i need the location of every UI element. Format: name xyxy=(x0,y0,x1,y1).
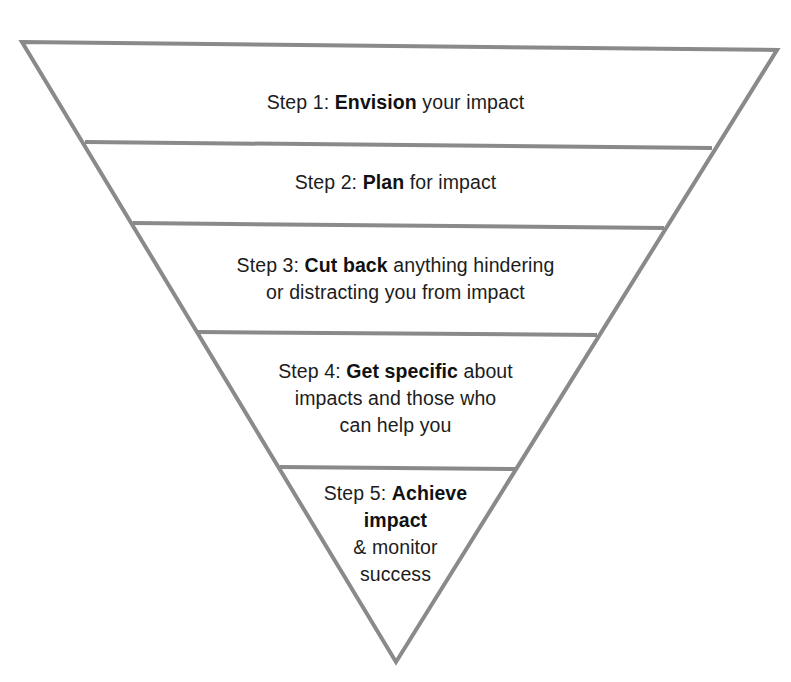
step-2-description: for impact xyxy=(404,171,496,193)
step-1-description: your impact xyxy=(417,91,524,113)
step-3-tier: Step 3: Cut back anything hindering or d… xyxy=(0,252,791,306)
step-5-line-2: impact xyxy=(0,507,791,534)
step-4-line-3: can help you xyxy=(0,412,791,439)
divider-1-2 xyxy=(85,142,712,148)
step-4-emphasis: Get specific xyxy=(346,360,458,382)
step-1-line-1: Step 1: Envision your impact xyxy=(0,89,791,116)
step-2-tier: Step 2: Plan for impact xyxy=(0,169,791,196)
step-4-description-cont: impacts and those who xyxy=(295,387,497,409)
step-5-line-4: success xyxy=(0,561,791,588)
step-5-description: & monitor xyxy=(353,536,437,558)
step-1-tier: Step 1: Envision your impact xyxy=(0,89,791,116)
divider-4-5 xyxy=(280,467,515,469)
step-3-description: anything hindering xyxy=(388,254,555,276)
step-2-emphasis: Plan xyxy=(363,171,405,193)
step-5-emphasis-cont: impact xyxy=(364,509,427,531)
step-5-description-end: success xyxy=(360,563,431,585)
step-5-line-3: & monitor xyxy=(0,534,791,561)
step-1-label: Step 1: xyxy=(267,91,335,113)
step-4-line-1: Step 4: Get specific about xyxy=(0,358,791,385)
step-3-line-2: or distracting you from impact xyxy=(0,279,791,306)
step-5-label: Step 5: xyxy=(324,482,392,504)
step-2-line-1: Step 2: Plan for impact xyxy=(0,169,791,196)
divider-3-4 xyxy=(198,332,597,335)
step-3-label: Step 3: xyxy=(237,254,305,276)
step-3-emphasis: Cut back xyxy=(305,254,388,276)
step-1-emphasis: Envision xyxy=(335,91,417,113)
step-4-description: about xyxy=(458,360,513,382)
step-5-tier: Step 5: Achieve impact & monitor success xyxy=(0,480,791,588)
step-5-line-1: Step 5: Achieve xyxy=(0,480,791,507)
step-5-emphasis: Achieve xyxy=(392,482,468,504)
step-2-label: Step 2: xyxy=(295,171,363,193)
divider-2-3 xyxy=(133,223,664,228)
step-3-line-1: Step 3: Cut back anything hindering xyxy=(0,252,791,279)
step-3-description-cont: or distracting you from impact xyxy=(266,281,525,303)
step-4-line-2: impacts and those who xyxy=(0,385,791,412)
step-4-tier: Step 4: Get specific about impacts and t… xyxy=(0,358,791,439)
step-4-label: Step 4: xyxy=(278,360,346,382)
step-4-description-end: can help you xyxy=(340,414,452,436)
